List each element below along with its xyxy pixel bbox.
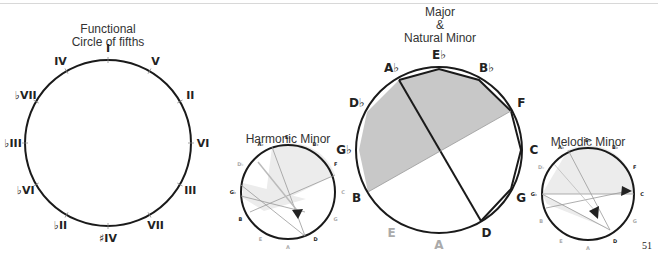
functional-label: ♭III <box>4 137 21 150</box>
melodic-label: A♭ <box>558 144 564 150</box>
melodic-label: E <box>559 238 563 244</box>
harmonic-label: A♭ <box>257 141 263 147</box>
harmonic-label: A <box>286 244 290 250</box>
major-label: B <box>352 191 361 205</box>
major-label: G♭ <box>336 143 352 157</box>
functional-label: IV <box>54 55 67 68</box>
melodic-label: B <box>539 218 543 224</box>
melodic-label: F <box>633 164 636 170</box>
melodic-label: G♭ <box>531 191 537 197</box>
major-natural-minor-circle: E♭B♭FCGDAEBG♭D♭A♭ <box>336 48 538 252</box>
functional-label: VII <box>147 219 164 232</box>
melodic-label: B♭ <box>612 144 618 150</box>
functional-label: ♭VI <box>17 184 35 197</box>
major-label: D♭ <box>349 96 365 110</box>
harmonic-label: B <box>238 216 242 222</box>
harmonic-label: C <box>341 189 345 195</box>
functional-label: ♭II <box>54 219 67 232</box>
melodic-label: G <box>633 218 637 224</box>
functional-label: VI <box>197 137 210 150</box>
melodic-label: A <box>586 245 590 251</box>
harmonic-label: E <box>259 236 263 242</box>
harmonic-minor-circle: E♭B♭FCGDAEBG♭D♭A♭ <box>230 134 345 250</box>
melodic-minor-circle: E♭B♭FCGDAEBG♭D♭A♭ <box>531 137 644 251</box>
melodic-label: D♭ <box>538 164 545 170</box>
functional-label: V <box>151 55 160 68</box>
harmonic-label: F <box>334 161 337 167</box>
melodic-label: E♭ <box>585 137 591 143</box>
functional-label: ♯IV <box>99 232 117 245</box>
major-label: G <box>516 191 526 205</box>
major-label: A <box>434 238 444 252</box>
circles-diagram: IVIIVIIIIVII♯IV♭II♭VI♭III♭VIIIV E♭B♭FCGD… <box>0 0 658 266</box>
major-label: F <box>517 96 525 110</box>
harmonic-label: D <box>313 236 317 242</box>
major-label: E♭ <box>432 48 446 62</box>
functional-label: I <box>106 42 110 55</box>
functional-label: ♭VII <box>15 89 37 102</box>
major-label: C <box>530 143 539 157</box>
harmonic-label: D♭ <box>237 161 244 167</box>
harmonic-label: B♭ <box>312 141 318 147</box>
major-label: B♭ <box>479 61 494 75</box>
functional-circle: IVIIVIIIIVII♯IV♭II♭VI♭III♭VIIIV <box>4 42 209 245</box>
harmonic-label: G <box>334 216 338 222</box>
major-label: E <box>387 226 395 240</box>
functional-label: II <box>186 89 194 102</box>
functional-label: III <box>184 184 196 197</box>
major-label: A♭ <box>384 61 399 75</box>
melodic-label: D <box>613 238 617 244</box>
harmonic-label: E♭ <box>285 134 291 140</box>
harmonic-label: G♭ <box>230 189 236 195</box>
major-label: D <box>482 226 492 240</box>
melodic-label: C <box>640 191 644 197</box>
